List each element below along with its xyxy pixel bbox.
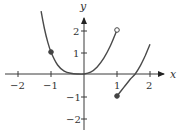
y-axis-label: y	[79, 0, 87, 13]
filled-point	[49, 50, 54, 55]
function-graph: x y −2 −1 1 2 2 1 −1 −2	[0, 0, 181, 140]
x-axis-label: x	[170, 68, 177, 81]
y-tick-label: −2	[66, 114, 81, 125]
curve-left-middle	[41, 11, 117, 74]
x-tick-label: 1	[114, 80, 120, 91]
open-point	[115, 28, 120, 33]
x-tick-label: 2	[146, 80, 152, 91]
y-tick-label: 2	[73, 26, 79, 37]
filled-point	[115, 94, 120, 99]
x-tick-label: −2	[10, 80, 25, 91]
x-tick-label: −1	[43, 80, 58, 91]
y-tick-label: −1	[66, 92, 81, 103]
y-tick-label: 1	[73, 48, 79, 59]
